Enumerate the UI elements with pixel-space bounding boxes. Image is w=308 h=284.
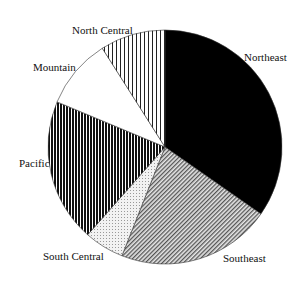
label-northeast: Northeast <box>244 51 287 63</box>
label-southeast: Southeast <box>223 252 266 264</box>
label-south-central: South Central <box>43 250 104 262</box>
label-pacific: Pacific <box>19 157 50 169</box>
label-north-central: North Central <box>72 24 133 36</box>
label-mountain: Mountain <box>33 61 76 73</box>
pie-chart <box>0 0 308 284</box>
